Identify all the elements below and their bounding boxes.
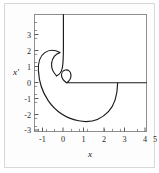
plot-frame: [35, 15, 147, 132]
x-tick-label-1: 1: [81, 135, 85, 144]
figure-root: -1 0 1 2 3 4 5 3 2 1 0 -1 -2 -3 x' x: [0, 0, 159, 173]
y-tick-label--2: -2: [24, 111, 31, 120]
x-tick-label-5: 5: [153, 135, 157, 144]
y-tick-label--1: -1: [24, 95, 31, 104]
y-tick-label-2: 2: [27, 47, 31, 56]
x-tick-label-0: 0: [61, 135, 65, 144]
x-tick-label-2: 2: [102, 135, 106, 144]
y-tick-label-3: 3: [27, 31, 31, 40]
y-tick-label-1: 1: [27, 63, 31, 72]
y-tick-label-0: 0: [27, 79, 31, 88]
x-tick-label-3: 3: [122, 135, 126, 144]
y-tick-label--3: -3: [24, 126, 31, 135]
x-axis-title: x: [87, 149, 93, 159]
phase-portrait-plot: -1 0 1 2 3 4 5 3 2 1 0 -1 -2 -3 x' x: [0, 0, 159, 173]
x-tick-label--1: -1: [39, 135, 46, 144]
x-tick-label-4: 4: [143, 135, 147, 144]
y-axis-title: x': [12, 67, 20, 77]
